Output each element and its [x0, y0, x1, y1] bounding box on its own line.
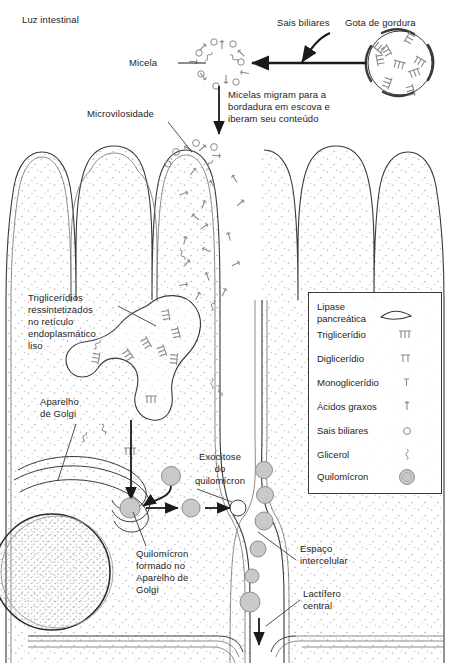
- diglyceride-icon: [401, 355, 410, 362]
- label-chylomicron-formed: Quilomícron formado no Aparelho de Golgi: [136, 548, 188, 596]
- triglyceride-icon: [399, 331, 411, 338]
- bile-salt-icon: [404, 428, 411, 435]
- label-exocytosis: Exocitose do quilomícron: [184, 451, 256, 487]
- triglycerides-in-droplet: [373, 32, 427, 98]
- leader-microvilosidade: [168, 122, 192, 152]
- label-micelle: Micela: [129, 57, 157, 69]
- label-intercellular-space: Espaço intercelular: [300, 543, 348, 567]
- arrow-bile-salts: [302, 33, 330, 62]
- label-bile-salts: Sais biliares: [277, 17, 330, 29]
- legend-icons: [309, 293, 441, 493]
- nucleus: [0, 514, 113, 630]
- label-microvillus: Microvilosidade: [87, 108, 154, 120]
- legend-box: Lipase pancreática Triglicerídio Diglice…: [308, 292, 442, 494]
- label-central-lacteal: Lactífero central: [303, 588, 341, 612]
- label-smooth-er: Triglicerídios ressintetizados no retícu…: [28, 292, 96, 352]
- fat-droplet: [366, 29, 433, 97]
- lipase-arc-icon: [381, 311, 411, 319]
- label-lumen: Luz intestinal: [22, 14, 79, 26]
- triglyceride-in-transit: [124, 448, 136, 455]
- fatty-acid-icon: [405, 401, 409, 410]
- label-migration-note: Micelas migram para a bordadura em escov…: [228, 89, 330, 125]
- label-golgi: Aparelho de Golgi: [40, 396, 79, 420]
- chylomicron-icon: [400, 470, 415, 485]
- diagram-canvas: Luz intestinal Sais biliares Gota de gor…: [0, 0, 450, 670]
- label-fat-droplet: Gota de gordura: [345, 17, 416, 29]
- micelle-structure: [189, 39, 249, 89]
- monoglyceride-icon: [404, 379, 409, 386]
- glycerol-icon: [406, 449, 409, 460]
